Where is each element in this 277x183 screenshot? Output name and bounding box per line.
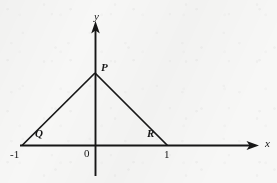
point-label-p: P: [101, 62, 108, 73]
point-label-r: R: [147, 128, 154, 139]
x-tick-label-neg-one: -1: [10, 149, 19, 160]
segment-qp: [22, 73, 95, 146]
x-tick-label-one: 1: [164, 149, 170, 160]
origin-label: 0: [84, 148, 90, 159]
x-axis: [20, 141, 259, 150]
y-axis: [91, 21, 100, 176]
x-axis-label: x: [265, 138, 270, 149]
y-axis-label: y: [94, 11, 99, 22]
point-label-q: Q: [35, 128, 43, 139]
segment-pr: [95, 73, 168, 146]
figure-canvas: y x P Q R 0 -1 1: [0, 0, 277, 183]
coordinate-plot: [0, 0, 277, 183]
